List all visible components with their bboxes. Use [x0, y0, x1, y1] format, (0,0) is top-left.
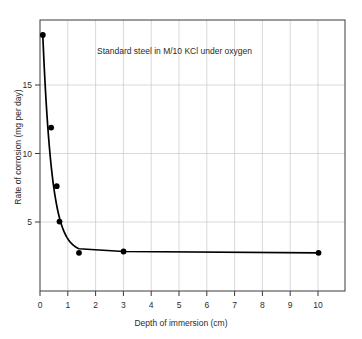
- data-point: [121, 249, 127, 255]
- x-tick-label: 4: [149, 300, 154, 310]
- data-point: [54, 183, 60, 189]
- x-tick-label: 3: [121, 300, 126, 310]
- x-axis-title: Depth of immersion (cm): [0, 318, 362, 328]
- corrosion-chart-figure: Standard steel in M/10 KCl under oxygen …: [0, 0, 362, 339]
- x-tick-label: 10: [313, 300, 322, 310]
- x-tick-label: 7: [232, 300, 237, 310]
- x-tick-marks: [40, 291, 318, 296]
- data-point: [57, 219, 63, 225]
- x-tick-label: 8: [260, 300, 265, 310]
- x-tick-label: 1: [65, 300, 70, 310]
- plot-frame: [40, 20, 345, 291]
- horizontal-gridlines: [40, 85, 345, 222]
- x-tick-label: 5: [177, 300, 182, 310]
- chart-annotation: Standard steel in M/10 KCl under oxygen: [97, 46, 252, 56]
- data-point: [40, 32, 46, 38]
- data-series-line: [43, 35, 319, 253]
- x-tick-label: 6: [204, 300, 209, 310]
- x-tick-label: 2: [93, 300, 98, 310]
- data-point: [48, 125, 54, 131]
- x-tick-label: 9: [288, 300, 293, 310]
- x-tick-label: 0: [38, 300, 43, 310]
- y-axis-title: Rate of corrosion (mg per day): [13, 57, 23, 237]
- data-point: [76, 250, 82, 256]
- y-tick-marks: [35, 85, 40, 222]
- data-point: [316, 250, 322, 256]
